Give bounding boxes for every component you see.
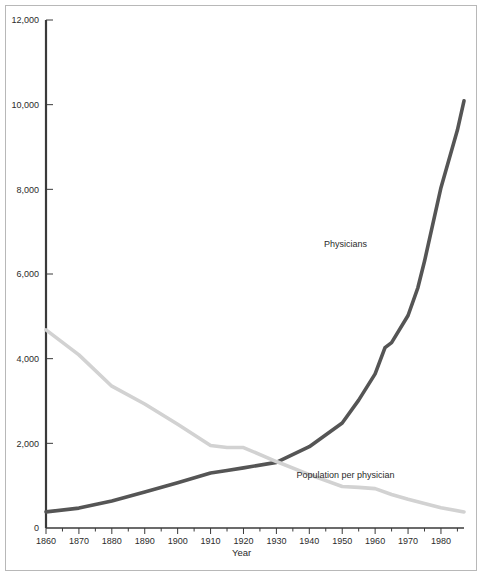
x-tick-label: 1960 [365,536,385,546]
y-tick-label: 6,000 [16,269,39,279]
x-axis-title: Year [232,547,251,558]
y-tick-label: 2,000 [16,439,39,449]
x-tick-label: 1870 [69,536,89,546]
series-annotation: Population per physician [296,470,394,480]
x-tick-label: 1880 [102,536,122,546]
x-tick-label: 1950 [332,536,352,546]
chart-figure: 02,0004,0006,0008,00010,00012,0001860187… [0,0,484,578]
x-tick-label: 1920 [233,536,253,546]
series-annotation: Physicians [324,239,368,249]
y-tick-label: 0 [34,523,39,533]
x-tick-label: 1900 [168,536,188,546]
y-tick-label: 12,000 [11,15,39,25]
x-tick-label: 1940 [299,536,319,546]
x-tick-label: 1860 [36,536,56,546]
y-tick-label: 10,000 [11,100,39,110]
line-chart: 02,0004,0006,0008,00010,00012,0001860187… [0,0,484,578]
x-tick-label: 1910 [201,536,221,546]
x-tick-label: 1970 [398,536,418,546]
x-tick-label: 1930 [266,536,286,546]
series-line-physicians [46,101,464,512]
y-tick-label: 4,000 [16,354,39,364]
y-tick-label: 8,000 [16,185,39,195]
x-tick-label: 1890 [135,536,155,546]
x-tick-label: 1980 [431,536,451,546]
series-line-population-per-physician [46,330,464,512]
